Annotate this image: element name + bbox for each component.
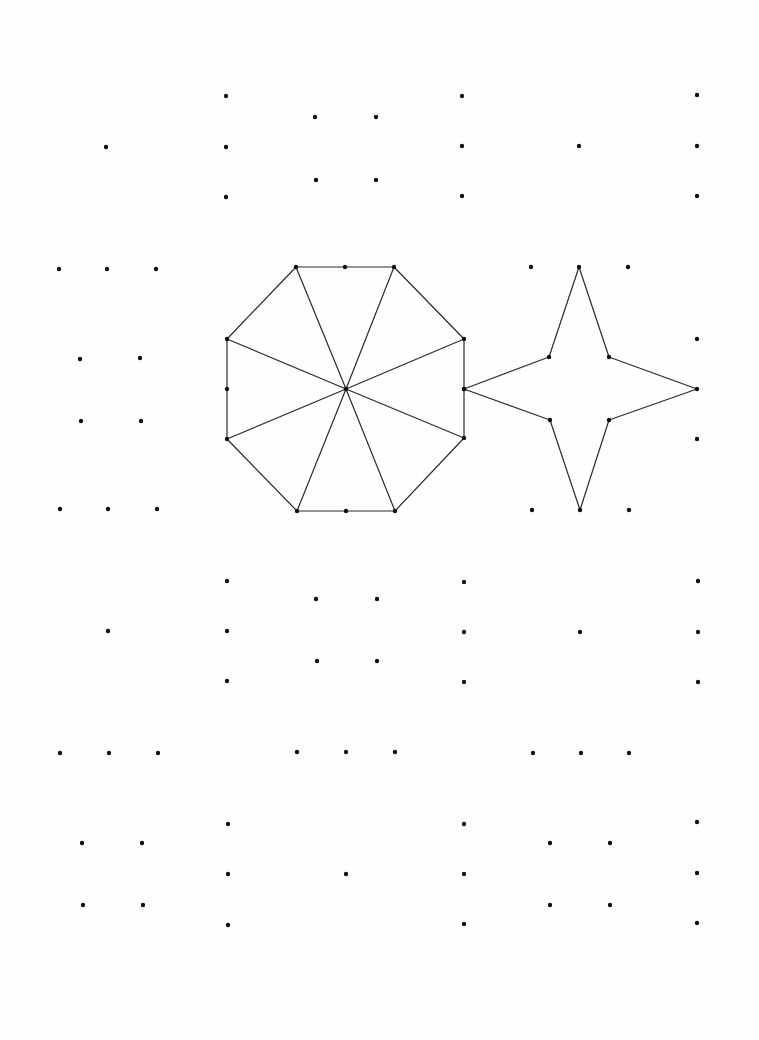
octagon-spoke <box>346 339 464 389</box>
grid-dot <box>225 579 229 583</box>
grid-dot <box>104 145 108 149</box>
star-vertex-dot <box>578 508 582 512</box>
grid-dot <box>695 194 699 198</box>
octagon-spoke <box>297 389 346 511</box>
star-vertex-dot <box>577 265 581 269</box>
grid-dot <box>295 750 299 754</box>
grid-dot <box>106 507 110 511</box>
grid-dot <box>226 872 230 876</box>
top-right-cluster <box>695 93 699 198</box>
grid-dot <box>462 630 466 634</box>
grid-dot <box>626 265 630 269</box>
geometry-figure <box>0 0 759 1040</box>
grid-dot <box>81 903 85 907</box>
grid-dot <box>314 178 318 182</box>
top-center-right-cluster <box>460 94 581 198</box>
octagon-vertex-dot <box>225 337 229 341</box>
star-vertex-dot <box>607 418 611 422</box>
grid-dot <box>393 750 397 754</box>
dot-grid-worksheet <box>0 0 759 1040</box>
octagon-edge-midpoint-dot <box>343 265 347 269</box>
grid-dot <box>224 195 228 199</box>
grid-dot <box>375 597 379 601</box>
grid-dot <box>314 597 318 601</box>
grid-dot <box>58 507 62 511</box>
grid-dot <box>696 680 700 684</box>
octagon-vertex-dot <box>225 437 229 441</box>
grid-dot <box>695 820 699 824</box>
grid-dot <box>608 841 612 845</box>
vertex-dots-layer <box>225 265 699 513</box>
grid-dot <box>695 144 699 148</box>
grid-dot <box>695 93 699 97</box>
grid-dot <box>313 115 317 119</box>
grid-dot <box>695 871 699 875</box>
four-point-star-outline <box>464 267 697 510</box>
grid-dot <box>695 921 699 925</box>
grid-dot <box>548 841 552 845</box>
grid-dot <box>460 144 464 148</box>
octagon-vertex-dot <box>393 509 397 513</box>
grid-dot <box>154 267 158 271</box>
star-vertex-dot <box>462 387 466 391</box>
grid-dot <box>548 903 552 907</box>
grid-dot <box>460 94 464 98</box>
middle-right-extra-dots <box>529 265 699 512</box>
grid-dot <box>627 751 631 755</box>
star-vertex-dot <box>695 387 699 391</box>
grid-dot <box>462 822 466 826</box>
grid-dot <box>141 903 145 907</box>
grid-dot <box>225 629 229 633</box>
grid-dot <box>695 437 699 441</box>
grid-dot <box>462 872 466 876</box>
octagon-center-dot <box>344 387 348 391</box>
octagon-vertex-dot <box>462 337 466 341</box>
octagon-vertex-dot <box>462 436 466 440</box>
grid-dot <box>462 580 466 584</box>
grid-dot <box>225 679 229 683</box>
grid-dot <box>58 751 62 755</box>
grid-dot <box>462 680 466 684</box>
grid-dot <box>78 357 82 361</box>
top-left-cluster <box>104 145 108 149</box>
grid-dot <box>696 579 700 583</box>
grid-dot <box>107 751 111 755</box>
octagon-edge-midpoint-dot <box>225 387 229 391</box>
octagon-vertex-dot <box>392 265 396 269</box>
lower-row-dots <box>58 750 631 755</box>
grid-dot <box>578 630 582 634</box>
grid-dot <box>627 508 631 512</box>
grid-dot <box>105 267 109 271</box>
grid-dot <box>79 419 83 423</box>
octagon-spoke <box>346 389 464 438</box>
grid-dot <box>140 841 144 845</box>
lower-center-right-cluster <box>462 579 700 684</box>
middle-left-cluster <box>57 267 159 511</box>
octagon-edge-midpoint-dot <box>344 509 348 513</box>
grid-dot <box>579 751 583 755</box>
grid-dot <box>224 145 228 149</box>
grid-dot <box>139 419 143 423</box>
grid-dot <box>315 659 319 663</box>
grid-dot <box>374 115 378 119</box>
star-vertex-dot <box>548 418 552 422</box>
grid-dot <box>226 822 230 826</box>
bottom-left-cluster <box>80 822 348 927</box>
grid-dot <box>226 923 230 927</box>
octagon-spoke <box>346 389 395 511</box>
grid-dot <box>374 178 378 182</box>
grid-dot <box>608 903 612 907</box>
grid-dot <box>577 144 581 148</box>
grid-dot <box>696 630 700 634</box>
grid-dot <box>529 265 533 269</box>
grid-dot <box>156 751 160 755</box>
grid-dot <box>375 659 379 663</box>
grid-dot <box>57 267 61 271</box>
grid-dot <box>106 629 110 633</box>
octagon-vertex-dot <box>295 509 299 513</box>
star-vertex-dot <box>607 355 611 359</box>
grid-dot <box>344 872 348 876</box>
octagon-spoke <box>227 389 346 439</box>
grid-dot <box>224 94 228 98</box>
star-vertex-dot <box>547 355 551 359</box>
